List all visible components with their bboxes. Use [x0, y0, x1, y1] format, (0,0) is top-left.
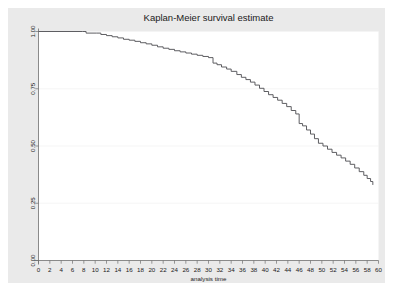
x-axis-title: analysis time: [191, 275, 227, 282]
x-tick-label: 52: [330, 266, 337, 273]
x-tick-label: 46: [296, 266, 303, 273]
x-tick-label: 50: [318, 266, 325, 273]
x-tick-label: 8: [82, 266, 86, 273]
y-axis-ticks: [35, 32, 38, 261]
x-axis-ticks: [39, 261, 379, 264]
x-tick-label: 60: [375, 266, 382, 273]
y-tick-label: 0.00: [29, 254, 36, 267]
x-tick-label: 36: [239, 266, 246, 273]
y-tick-label: 0.75: [29, 82, 36, 95]
x-tick-label: 6: [71, 266, 75, 273]
x-tick-label: 0: [37, 266, 41, 273]
x-tick-label: 2: [48, 266, 52, 273]
x-tick-label: 38: [250, 266, 257, 273]
x-tick-label: 56: [352, 266, 359, 273]
x-tick-label: 4: [59, 266, 63, 273]
x-tick-label: 12: [103, 266, 110, 273]
x-tick-label: 16: [126, 266, 133, 273]
x-axis-tick-labels: 0246810121416182022242628303234363840424…: [37, 266, 383, 273]
x-tick-label: 30: [205, 266, 212, 273]
x-tick-label: 10: [92, 266, 99, 273]
x-tick-label: 34: [228, 266, 235, 273]
x-tick-label: 42: [273, 266, 280, 273]
x-tick-label: 58: [364, 266, 371, 273]
x-tick-label: 18: [137, 266, 144, 273]
x-tick-label: 20: [148, 266, 155, 273]
x-tick-label: 32: [216, 266, 223, 273]
y-tick-label: 0.25: [29, 197, 36, 210]
x-tick-label: 48: [307, 266, 314, 273]
kaplan-meier-chart: 0246810121416182022242628303234363840424…: [0, 0, 410, 297]
y-tick-label: 1.00: [29, 25, 36, 38]
y-tick-label: 0.50: [29, 139, 36, 152]
x-tick-label: 28: [194, 266, 201, 273]
x-tick-label: 14: [114, 266, 121, 273]
x-tick-label: 54: [341, 266, 348, 273]
x-tick-label: 44: [284, 266, 291, 273]
chart-title: Kaplan-Meier survival estimate: [144, 12, 274, 23]
y-axis-tick-labels: 0.000.250.500.751.00: [29, 25, 36, 267]
figure-canvas: 0246810121416182022242628303234363840424…: [0, 0, 410, 297]
x-tick-label: 26: [182, 266, 189, 273]
x-tick-label: 22: [160, 266, 167, 273]
x-tick-label: 24: [171, 266, 178, 273]
x-tick-label: 40: [262, 266, 269, 273]
